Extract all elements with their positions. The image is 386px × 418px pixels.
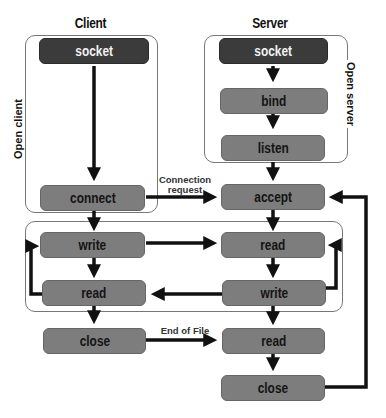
server-accept-node[interactable]: accept: [221, 184, 325, 210]
server-close-node[interactable]: close: [221, 375, 325, 401]
server-bind-node[interactable]: bind: [220, 88, 328, 114]
node-label: socket: [255, 43, 293, 59]
server-listen-node[interactable]: listen: [221, 135, 325, 161]
client-read-node[interactable]: read: [42, 280, 146, 306]
server-write-node[interactable]: write: [222, 280, 326, 306]
server-read-node[interactable]: read: [221, 232, 325, 258]
node-label: close: [258, 380, 288, 396]
node-label: accept: [254, 189, 292, 205]
client-write-node[interactable]: write: [40, 232, 145, 258]
node-label: bind: [261, 93, 286, 109]
node-label: socket: [75, 43, 113, 59]
node-label: read: [260, 237, 285, 253]
node-label: write: [79, 237, 107, 253]
node-label: connect: [70, 190, 116, 206]
end-of-file-label: End of File: [150, 326, 220, 336]
node-label: close: [79, 333, 109, 349]
client-close-node[interactable]: close: [43, 328, 146, 354]
client-socket-node[interactable]: socket: [39, 38, 149, 64]
node-label: write: [260, 285, 288, 301]
server-read-eof-node[interactable]: read: [222, 328, 325, 354]
client-connect-node[interactable]: connect: [40, 185, 145, 211]
node-label: read: [261, 333, 286, 349]
server-socket-node[interactable]: socket: [219, 38, 328, 64]
node-label: listen: [257, 140, 288, 156]
connection-request-label: Connection request: [150, 175, 220, 195]
node-label: read: [81, 285, 106, 301]
